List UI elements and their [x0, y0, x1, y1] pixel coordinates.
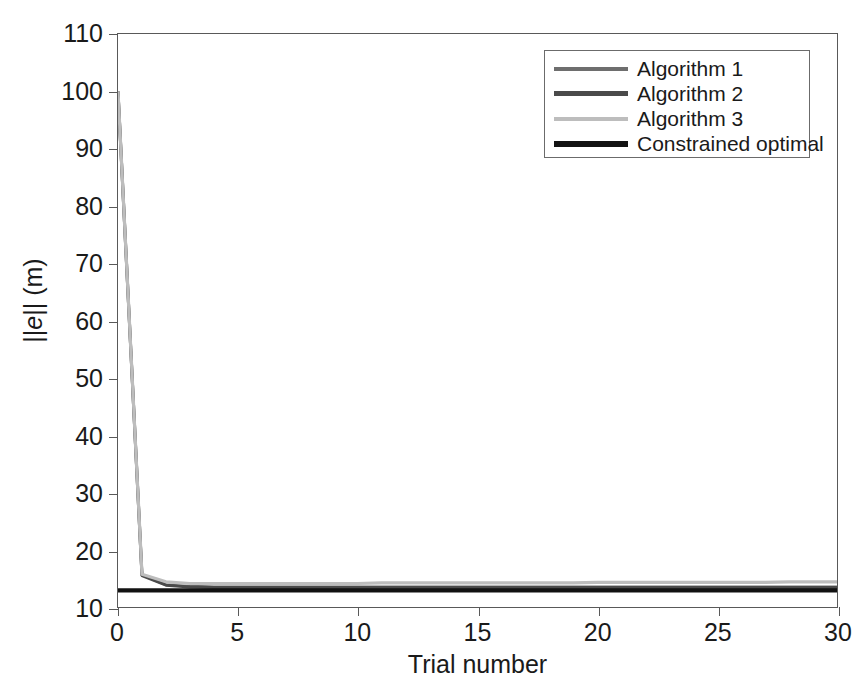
y-tick-label: 40: [33, 424, 103, 449]
y-axis-tick: [109, 207, 118, 208]
x-axis-tick: [719, 607, 720, 616]
x-axis-title: Trial number: [117, 650, 838, 679]
x-tick-label: 20: [558, 620, 638, 645]
y-axis-tick: [109, 264, 118, 265]
y-tick-label: 60: [33, 309, 103, 334]
x-axis-tick: [118, 607, 119, 616]
legend-color-swatch: [554, 141, 628, 147]
y-axis-title: ||e|| (m): [19, 221, 48, 381]
x-axis-tick: [358, 607, 359, 616]
y-tick-label: 90: [33, 136, 103, 161]
y-axis-tick: [109, 34, 118, 35]
x-tick-label: 5: [197, 620, 277, 645]
legend-entry[interactable]: Algorithm 3: [545, 106, 809, 131]
y-tick-label: 70: [33, 251, 103, 276]
y-axis-tick: [109, 322, 118, 323]
y-axis-tick: [109, 437, 118, 438]
legend-color-swatch: [554, 91, 628, 96]
y-tick-label: 110: [33, 21, 103, 46]
x-tick-label: 25: [678, 620, 758, 645]
y-tick-label: 30: [33, 481, 103, 506]
legend-label: Constrained optimal: [637, 133, 824, 154]
series-line: [118, 91, 837, 583]
x-axis-tick: [599, 607, 600, 616]
legend-entry[interactable]: Algorithm 2: [545, 81, 809, 106]
y-tick-label: 50: [33, 366, 103, 391]
y-tick-label: 20: [33, 539, 103, 564]
legend-entry[interactable]: Constrained optimal: [545, 131, 809, 156]
y-axis-tick: [109, 379, 118, 380]
legend-label: Algorithm 2: [637, 83, 743, 104]
series-line: [118, 91, 837, 587]
x-tick-label: 15: [438, 620, 518, 645]
series-line: [118, 91, 837, 587]
legend-entry[interactable]: Algorithm 1: [545, 56, 809, 81]
x-tick-label: 10: [317, 620, 397, 645]
y-axis-tick: [109, 552, 118, 553]
legend-label: Algorithm 3: [637, 108, 743, 129]
x-tick-label: 0: [77, 620, 157, 645]
x-tick-label: 30: [798, 620, 867, 645]
y-axis-tick: [109, 609, 118, 610]
y-tick-label: 100: [33, 79, 103, 104]
y-axis-tick: [109, 92, 118, 93]
y-axis-tick: [109, 494, 118, 495]
legend: Algorithm 1Algorithm 2Algorithm 3Constra…: [544, 50, 810, 158]
x-axis-tick: [238, 607, 239, 616]
y-tick-label: 80: [33, 194, 103, 219]
figure-canvas: ||e|| (m) 102030405060708090100110 05101…: [0, 0, 867, 688]
x-axis-tick: [479, 607, 480, 616]
x-axis-tick: [839, 607, 840, 616]
legend-color-swatch: [554, 67, 628, 71]
legend-label: Algorithm 1: [637, 58, 743, 79]
y-tick-label: 10: [33, 596, 103, 621]
legend-color-swatch: [554, 117, 628, 121]
y-axis-tick: [109, 149, 118, 150]
